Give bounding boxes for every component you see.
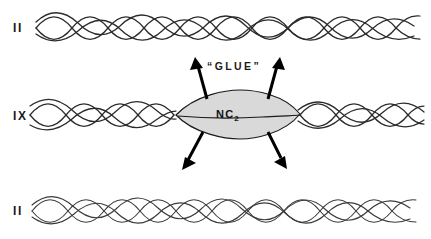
glue-arrow-down-left bbox=[182, 132, 203, 170]
row-label-middle: IX bbox=[13, 109, 28, 123]
nc2-label: NC2 bbox=[216, 108, 239, 123]
nc2-label-subscript: 2 bbox=[234, 114, 238, 123]
strand-group-row-2-right bbox=[298, 102, 424, 128]
figure-canvas: II IX II “GLUE” NC2 bbox=[0, 0, 431, 239]
glue-arrow-up-right bbox=[268, 57, 285, 99]
strand-group-row-1 bbox=[36, 13, 420, 41]
strand-row-3-a bbox=[32, 200, 416, 223]
row-label-bottom: II bbox=[13, 204, 23, 218]
row-label-top: II bbox=[13, 21, 23, 35]
glue-arrow-up-left bbox=[190, 57, 207, 99]
strand-row-3-d bbox=[32, 203, 410, 224]
glue-arrow-down-right bbox=[268, 132, 287, 169]
strand-row-3-b bbox=[32, 200, 416, 223]
strand-group-row-2-left bbox=[30, 99, 176, 130]
strand-group-row-3 bbox=[32, 197, 416, 224]
glue-label: “GLUE” bbox=[207, 60, 261, 72]
nc2-label-base: NC bbox=[216, 108, 234, 120]
